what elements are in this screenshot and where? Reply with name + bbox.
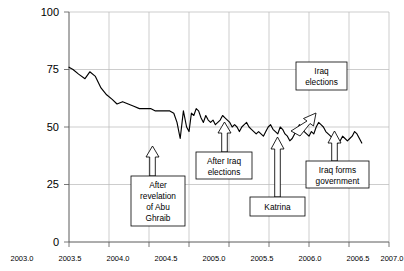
annotation-line: elections — [305, 77, 338, 87]
x-tick-label: 2006.0 — [299, 254, 322, 263]
annotation-line: elections — [208, 167, 241, 177]
y-tick-label: 0 — [53, 236, 59, 248]
chart-container: 100 75 50 25 0 2003.0 2003.5 2004.0 2004… — [0, 0, 404, 271]
y-tick-label: 25 — [47, 178, 59, 190]
x-tick-label: 2004.0 — [107, 254, 130, 263]
annotation-after-iraq-elections[interactable]: After Iraq elections — [196, 122, 252, 179]
x-tick-label: 2006.5 — [347, 254, 370, 263]
x-axis — [69, 242, 389, 247]
annotation-abu-ghraib[interactable]: After revelation of Abu Ghraib — [131, 146, 185, 226]
clipped-title-remnant — [60, 0, 240, 3]
x-tick-label: 2005.0 — [203, 254, 226, 263]
x-tick-labels: 2003.0 2003.5 2004.0 2004.5 2005.0 2005.… — [11, 254, 404, 263]
y-tick-label: 50 — [47, 121, 59, 133]
annotation-line: of Abu — [146, 202, 170, 212]
y-axis — [64, 12, 69, 242]
y-tick-labels: 100 75 50 25 0 — [41, 6, 59, 248]
annotation-line: Katrina — [264, 202, 291, 212]
annotation-line: Iraq — [314, 66, 329, 76]
arrow-up-icon — [271, 137, 284, 197]
x-tick-label: 2007.0 — [381, 254, 404, 263]
annotation-line: revelation — [140, 191, 176, 201]
x-tick-label: 2003.5 — [59, 254, 82, 263]
y-tick-label: 75 — [47, 63, 59, 75]
annotation-line: Iraq forms — [319, 165, 356, 175]
x-tick-label: 2004.5 — [155, 254, 178, 263]
annotation-line: After Iraq — [207, 156, 242, 166]
arrow-up-icon — [146, 146, 159, 176]
y-tick-label: 100 — [41, 6, 59, 18]
x-tick-label: 2003.0 — [11, 254, 34, 263]
x-tick-label: 2005.5 — [251, 254, 274, 263]
annotation-line: Ghraib — [146, 213, 171, 223]
approval-rating-line-chart: 100 75 50 25 0 2003.0 2003.5 2004.0 2004… — [0, 0, 404, 271]
annotation-line: government — [316, 176, 361, 186]
annotation-line: After — [149, 180, 167, 190]
annotation-katrina[interactable]: Katrina — [250, 137, 305, 216]
